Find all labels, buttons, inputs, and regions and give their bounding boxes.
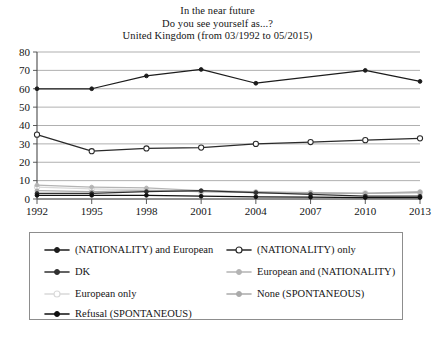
series-line <box>37 135 420 152</box>
legend-item[interactable]: (NATIONALITY) only <box>226 242 356 258</box>
y-axis-label: 70 <box>19 64 31 76</box>
data-point <box>34 132 39 137</box>
data-point <box>90 87 94 91</box>
data-point <box>35 87 39 91</box>
y-axis-label: 80 <box>19 46 31 58</box>
data-point <box>417 136 422 141</box>
x-axis-label: 1992 <box>26 205 48 217</box>
chart-legend: (NATIONALITY) and European(NATIONALITY) … <box>29 232 403 320</box>
legend-item[interactable]: DK <box>44 264 90 280</box>
plot-area: 0102030405060708019921995199820012004200… <box>0 0 435 232</box>
legend-marker-icon <box>226 288 252 300</box>
x-axis-label: 2013 <box>409 205 432 217</box>
data-point <box>144 146 149 151</box>
data-point <box>145 74 149 78</box>
x-axis-label: 2010 <box>354 205 377 217</box>
data-point <box>145 193 149 197</box>
legend-item[interactable]: (NATIONALITY) and European <box>44 242 213 258</box>
x-axis-label: 1995 <box>81 205 104 217</box>
data-point <box>199 189 203 193</box>
x-axis-label: 2004 <box>245 205 268 217</box>
series-line <box>37 69 420 88</box>
y-axis-label: 30 <box>19 138 31 150</box>
y-axis-label: 20 <box>19 156 31 168</box>
y-axis-label: 10 <box>19 174 31 186</box>
data-point <box>308 139 313 144</box>
data-point <box>35 193 39 197</box>
legend-marker-icon <box>44 244 70 256</box>
data-point <box>254 81 258 85</box>
y-axis-label: 60 <box>19 83 31 95</box>
data-point <box>199 145 204 150</box>
data-point <box>90 193 94 197</box>
data-point <box>309 195 313 199</box>
data-point <box>199 194 203 198</box>
y-axis-label: 50 <box>19 101 31 113</box>
legend-marker-icon <box>226 266 252 278</box>
legend-label: European and (NATIONALITY) <box>257 266 395 278</box>
data-point <box>363 138 368 143</box>
legend-label: (NATIONALITY) and European <box>75 244 213 256</box>
data-point <box>418 196 422 200</box>
x-axis-label: 2001 <box>190 205 212 217</box>
legend-marker-icon <box>44 308 70 320</box>
data-point <box>418 80 422 84</box>
legend-item[interactable]: None (SPONTANEOUS) <box>226 286 364 302</box>
y-axis-label: 0 <box>25 193 31 205</box>
caption-cutoff <box>18 326 418 335</box>
legend-marker-icon <box>44 266 70 278</box>
data-point <box>199 68 203 72</box>
x-axis-label: 1998 <box>135 205 158 217</box>
data-point <box>253 141 258 146</box>
x-axis-label: 2007 <box>300 205 323 217</box>
data-point <box>363 196 367 200</box>
legend-item[interactable]: European and (NATIONALITY) <box>226 264 395 280</box>
data-point <box>90 185 94 189</box>
chart-figure: In the near future Do you see yourself a… <box>0 0 435 338</box>
data-point <box>254 191 258 195</box>
legend-label: None (SPONTANEOUS) <box>257 288 364 300</box>
legend-label: Refusal (SPONTANEOUS) <box>75 308 192 320</box>
data-point <box>363 68 367 72</box>
legend-label: European only <box>75 288 137 300</box>
legend-label: (NATIONALITY) only <box>257 244 356 256</box>
data-point <box>35 183 39 187</box>
data-point <box>89 149 94 154</box>
legend-marker-icon <box>226 244 252 256</box>
legend-label: DK <box>75 266 90 278</box>
y-axis-label: 40 <box>19 119 31 131</box>
legend-marker-icon <box>44 288 70 300</box>
legend-item[interactable]: European only <box>44 286 137 302</box>
data-point <box>254 195 258 199</box>
legend-item[interactable]: Refusal (SPONTANEOUS) <box>44 306 192 322</box>
